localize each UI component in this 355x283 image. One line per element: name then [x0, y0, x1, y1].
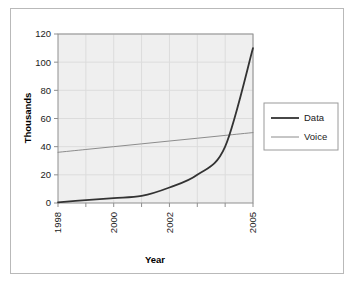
y-axis-tick-label: 100 [35, 57, 51, 68]
legend-label-data: Data [304, 112, 325, 123]
x-axis-tick-label: 2005 [247, 212, 258, 233]
legend-box [264, 103, 338, 150]
y-axis-tick-label: 60 [40, 113, 51, 124]
y-axis: 020406080100120 [35, 28, 58, 208]
y-axis-tick-label: 120 [35, 28, 51, 39]
y-axis-tick-label: 80 [40, 85, 51, 96]
line-chart: 020406080100120 1998200020022005 Thousan… [11, 9, 345, 275]
chart-figure: 020406080100120 1998200020022005 Thousan… [10, 8, 344, 274]
x-axis-tick-label: 1998 [52, 212, 63, 233]
x-axis: 1998200020022005 [52, 203, 258, 233]
legend-label-voice: Voice [304, 131, 327, 142]
chart-legend: DataVoice [264, 103, 338, 150]
x-axis-title: Year [145, 254, 165, 265]
y-axis-tick-label: 20 [40, 169, 51, 180]
y-axis-title: Thousands [22, 93, 33, 144]
x-axis-tick-label: 2002 [164, 212, 175, 233]
x-axis-tick-label: 2000 [108, 212, 119, 233]
y-axis-tick-label: 40 [40, 141, 51, 152]
y-axis-tick-label: 0 [46, 197, 51, 208]
